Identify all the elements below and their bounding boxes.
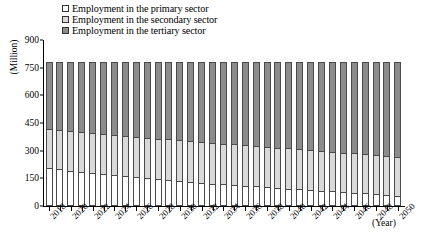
bar-stack <box>176 62 183 206</box>
bar-segment-primary <box>264 187 271 206</box>
bar-stack <box>394 62 401 206</box>
chart-figure: Employment in the primary sector Employm… <box>0 0 424 243</box>
bar-segment-primary <box>46 168 53 206</box>
bar-segment-secondary <box>176 140 183 181</box>
bar-segment-primary <box>220 184 227 206</box>
y-tick-label: 450 <box>25 118 39 128</box>
bar-segment-tertiary <box>176 62 183 140</box>
chart-legend: Employment in the primary sector Employm… <box>62 3 322 36</box>
bar-stack <box>220 62 227 206</box>
bar-segment-secondary <box>133 137 140 177</box>
bar-stack <box>100 62 107 206</box>
x-tick-mark <box>191 207 192 211</box>
bar-segment-secondary <box>111 135 118 175</box>
bar-segment-tertiary <box>274 62 281 147</box>
x-tick-mark <box>147 207 148 211</box>
bar-segment-primary <box>394 196 401 206</box>
bar-segment-secondary <box>46 129 53 168</box>
bar-segment-secondary <box>340 153 347 193</box>
x-tick-mark <box>93 207 94 211</box>
bar-stack <box>373 62 380 206</box>
bar-segment-secondary <box>318 151 325 191</box>
x-tick-mark <box>365 207 366 211</box>
bar-segment-secondary <box>144 138 151 178</box>
x-tick-mark <box>256 207 257 211</box>
x-tick-mark <box>125 207 126 211</box>
bar-segment-primary <box>198 183 205 206</box>
legend-label-secondary: Employment in the secondary sector <box>72 14 217 25</box>
y-tick-label: 750 <box>25 63 39 73</box>
bar-segment-secondary <box>296 149 303 189</box>
bar-segment-tertiary <box>220 62 227 144</box>
y-tick-mark <box>40 40 43 41</box>
bar-stack <box>67 62 74 206</box>
bar-segment-tertiary <box>89 62 96 133</box>
bar-segment-secondary <box>351 153 358 192</box>
x-axis-title: (Year) <box>372 218 396 228</box>
bar-segment-tertiary <box>318 62 325 151</box>
bar-stack <box>296 62 303 206</box>
y-tick-label: 300 <box>25 146 39 156</box>
bar-stack <box>340 62 347 206</box>
bar-segment-tertiary <box>373 62 380 155</box>
bar-segment-tertiary <box>155 62 162 139</box>
bar-segment-primary <box>242 186 249 206</box>
bar-stack <box>253 62 260 206</box>
x-tick-mark <box>60 207 61 211</box>
bar-segment-secondary <box>220 144 227 185</box>
bar-stack <box>89 62 96 206</box>
bar-segment-secondary <box>373 155 380 194</box>
y-tick-mark <box>40 150 43 151</box>
legend-label-primary: Employment in the primary sector <box>72 3 209 14</box>
bar-segment-tertiary <box>242 62 249 145</box>
bar-stack <box>285 62 292 206</box>
x-tick-mark <box>387 207 388 211</box>
bar-segment-secondary <box>78 132 85 171</box>
x-tick-mark <box>322 207 323 211</box>
bar-segment-tertiary <box>329 62 336 151</box>
bar-segment-secondary <box>231 144 238 185</box>
bar-stack <box>165 62 172 206</box>
bar-stack <box>187 62 194 206</box>
bar-stack <box>274 62 281 206</box>
bar-segment-secondary <box>307 150 314 190</box>
bar-stack <box>133 62 140 206</box>
bar-segment-tertiary <box>100 62 107 134</box>
y-tick-mark <box>40 67 43 68</box>
bar-segment-tertiary <box>46 62 53 129</box>
y-tick-label: 600 <box>25 90 39 100</box>
bar-segment-tertiary <box>111 62 118 135</box>
y-axis-title: (Million) <box>9 22 19 92</box>
bar-segment-tertiary <box>264 62 271 146</box>
bar-segment-secondary <box>209 143 216 184</box>
bar-segment-secondary <box>242 145 249 186</box>
x-tick-mark <box>82 207 83 211</box>
bar-segment-primary <box>155 179 162 206</box>
bar-segment-secondary <box>285 148 292 188</box>
y-tick-mark <box>40 123 43 124</box>
bar-segment-tertiary <box>165 62 172 139</box>
bar-segment-primary <box>111 175 118 206</box>
bar-stack <box>198 62 205 206</box>
bar-segment-primary <box>285 189 292 206</box>
x-tick-mark <box>234 207 235 211</box>
bar-stack <box>242 62 249 206</box>
legend-swatch-primary-icon <box>62 5 69 12</box>
bar-segment-secondary <box>187 141 194 182</box>
bar-stack <box>56 62 63 206</box>
bar-stack <box>231 62 238 206</box>
y-tick-label: 150 <box>25 173 39 183</box>
x-tick-mark <box>343 207 344 211</box>
bar-segment-secondary <box>274 148 281 188</box>
bar-segment-secondary <box>56 130 63 169</box>
bar-segment-tertiary <box>307 62 314 150</box>
bar-stack <box>318 62 325 206</box>
bar-segment-tertiary <box>394 62 401 157</box>
x-tick-mark <box>311 207 312 211</box>
x-tick-mark <box>213 207 214 211</box>
bar-segment-tertiary <box>67 62 74 131</box>
bar-segment-secondary <box>89 133 96 173</box>
x-tick-mark <box>278 207 279 211</box>
bar-segment-tertiary <box>133 62 140 137</box>
bar-stack <box>111 62 118 206</box>
